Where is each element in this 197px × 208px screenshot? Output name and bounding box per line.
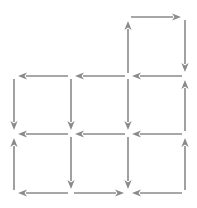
arrow-edge	[131, 13, 181, 20]
arrow-edge	[181, 20, 188, 72]
arrowhead-icon	[124, 21, 131, 30]
arrowhead-icon	[67, 121, 74, 130]
arrow-edge	[18, 130, 68, 137]
arrowhead-icon	[181, 80, 188, 89]
arrowhead-icon	[10, 121, 17, 130]
arrowhead-icon	[18, 130, 27, 137]
arrowhead-icon	[18, 189, 27, 196]
arrow-edges	[10, 13, 188, 196]
arrowhead-icon	[172, 13, 181, 20]
arrow-edge	[124, 79, 131, 130]
arrowhead-icon	[132, 189, 141, 196]
arrowhead-icon	[124, 180, 131, 189]
arrow-edge	[10, 79, 17, 130]
arrowhead-icon	[75, 72, 84, 79]
arrow-edge	[132, 189, 182, 196]
arrow-edge	[67, 137, 74, 189]
arrow-edge	[181, 80, 188, 131]
arrow-edge	[75, 72, 125, 79]
arrowhead-icon	[181, 138, 188, 147]
arrow-edge	[18, 189, 68, 196]
arrow-edge	[18, 72, 68, 79]
arrow-edge	[181, 138, 188, 190]
arrow-edge	[124, 137, 131, 189]
arrowhead-icon	[115, 189, 124, 196]
arrowhead-icon	[67, 180, 74, 189]
arrowhead-icon	[10, 138, 17, 147]
arrow-edge	[10, 138, 17, 190]
arrowhead-icon	[132, 130, 141, 137]
arrowhead-icon	[75, 130, 84, 137]
directed-grid-diagram	[0, 0, 197, 208]
arrow-edge	[132, 72, 182, 79]
arrow-edge	[132, 130, 182, 137]
arrow-edge	[67, 79, 74, 130]
arrow-edge	[124, 21, 131, 73]
arrow-edge	[74, 189, 124, 196]
arrowhead-icon	[18, 72, 27, 79]
arrowhead-icon	[124, 121, 131, 130]
arrow-edge	[75, 130, 125, 137]
arrowhead-icon	[132, 72, 141, 79]
arrowhead-icon	[181, 63, 188, 72]
